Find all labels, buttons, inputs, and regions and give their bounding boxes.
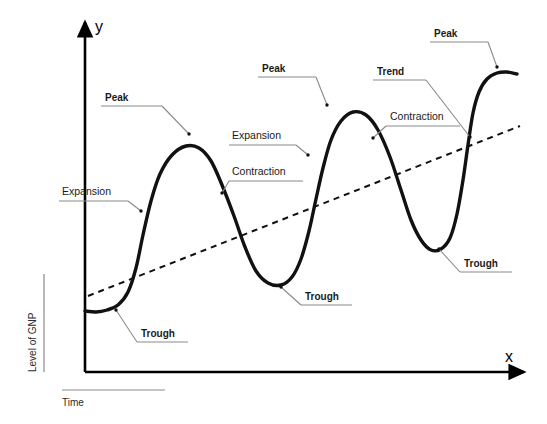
annotation-contraction-2: Contraction bbox=[371, 110, 460, 140]
annotation-label-contraction-2: Contraction bbox=[390, 110, 444, 122]
annotation-peak-1: Peak bbox=[101, 92, 191, 136]
annotation-leader-line bbox=[296, 145, 308, 155]
annotation-tip-dot bbox=[437, 247, 440, 250]
annotation-contraction-1: Contraction bbox=[220, 165, 303, 195]
annotation-leader-line bbox=[281, 287, 301, 305]
business-cycle-chart: y x Level of GNP Time PeakExpansionTroug… bbox=[0, 0, 547, 424]
annotation-label-peak-3: Peak bbox=[434, 28, 458, 39]
x-axis-caption: Time bbox=[62, 397, 84, 408]
y-axis-caption-group: Level of GNP bbox=[27, 274, 44, 372]
annotation-tip-dot bbox=[495, 65, 498, 68]
annotation-tip-dot bbox=[468, 135, 471, 138]
annotation-label-peak-1: Peak bbox=[105, 92, 129, 103]
x-axis-letter: x bbox=[505, 348, 513, 365]
business-cycle-curve bbox=[85, 72, 517, 312]
annotation-expansion-1: Expansion bbox=[59, 185, 143, 213]
annotation-leader-line bbox=[488, 42, 497, 67]
annotation-trough-3: Trough bbox=[437, 247, 512, 272]
annotation-leader-line bbox=[426, 80, 470, 137]
annotation-trough-1: Trough bbox=[114, 308, 188, 342]
annotation-tip-dot bbox=[371, 136, 374, 139]
annotation-label-trough-1: Trough bbox=[141, 328, 175, 339]
y-axis-letter: y bbox=[95, 18, 103, 35]
annotation-peak-2: Peak bbox=[258, 63, 329, 107]
annotation-leader-line bbox=[162, 106, 189, 134]
annotation-trough-2: Trough bbox=[279, 285, 352, 305]
y-axis-caption: Level of GNP bbox=[27, 312, 38, 372]
annotation-label-expansion-2: Expansion bbox=[232, 129, 281, 141]
annotation-tip-dot bbox=[220, 191, 223, 194]
x-axis-caption-group: Time bbox=[62, 390, 165, 408]
annotation-leader-line bbox=[316, 77, 327, 105]
annotation-leader-line bbox=[439, 249, 460, 272]
annotation-tip-dot bbox=[139, 209, 142, 212]
annotation-leader-line bbox=[128, 201, 141, 211]
annotation-tip-dot bbox=[279, 285, 282, 288]
annotation-label-contraction-1: Contraction bbox=[232, 165, 286, 177]
annotation-label-trend: Trend bbox=[377, 66, 404, 77]
annotation-label-peak-2: Peak bbox=[262, 63, 286, 74]
annotation-tip-dot bbox=[114, 308, 117, 311]
annotation-label-trough-3: Trough bbox=[464, 258, 498, 269]
annotation-tip-dot bbox=[325, 103, 328, 106]
annotation-trend: Trend bbox=[373, 66, 472, 139]
business-cycle-figure: y x Level of GNP Time PeakExpansionTroug… bbox=[0, 0, 547, 424]
annotation-expansion-2: Expansion bbox=[229, 129, 310, 157]
annotation-peak-3: Peak bbox=[430, 28, 499, 69]
annotation-tip-dot bbox=[187, 132, 190, 135]
annotation-label-expansion-1: Expansion bbox=[62, 185, 111, 197]
annotation-leader-line bbox=[116, 310, 137, 342]
annotation-label-trough-2: Trough bbox=[305, 291, 339, 302]
annotation-tip-dot bbox=[306, 153, 309, 156]
